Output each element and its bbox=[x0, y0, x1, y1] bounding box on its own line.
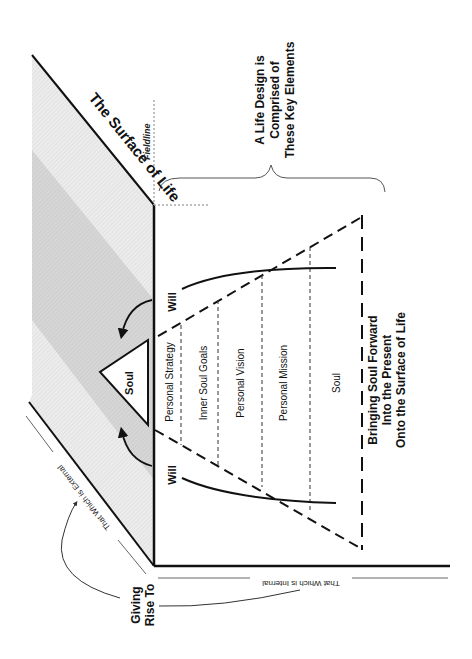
layer-personal-strategy: Personal Strategy bbox=[164, 342, 175, 422]
caption-line2: Into the Present bbox=[380, 335, 394, 426]
will-label-bottom: Will bbox=[166, 465, 178, 484]
brace-label-line2: Comprised of bbox=[268, 60, 282, 138]
caption-line1: Bringing Soul Forward bbox=[366, 315, 380, 444]
layer-personal-vision: Personal Vision bbox=[235, 348, 246, 417]
fieldline-label: Fieldline bbox=[142, 123, 152, 160]
brace-label-line1: A Life Design is bbox=[253, 55, 267, 145]
giving-rise-to-internal-line bbox=[159, 590, 300, 606]
will-curve-top bbox=[182, 268, 336, 289]
internal-label: That Which is Internal bbox=[262, 579, 340, 588]
layer-personal-mission: Personal Mission bbox=[278, 345, 289, 421]
layer-inner-soul-goals: Inner Soul Goals bbox=[198, 346, 209, 421]
brace-label-line3: These Key Elements bbox=[283, 41, 297, 158]
will-label-top: Will bbox=[166, 292, 178, 311]
giving-rise-line1: Giving bbox=[129, 586, 143, 623]
soul-apex-label: Soul bbox=[123, 371, 135, 395]
layer-soul: Soul bbox=[331, 373, 342, 393]
life-design-triangle-lower bbox=[155, 430, 360, 548]
caption-line3: Onto the Surface of Life bbox=[394, 312, 408, 448]
life-design-diagram: The Surface of Life Fieldline A Life Des… bbox=[0, 0, 472, 659]
giving-rise-line2: Rise To bbox=[143, 584, 157, 626]
giving-rise-arrow bbox=[61, 503, 120, 598]
brace bbox=[159, 165, 385, 192]
life-design-triangle bbox=[155, 218, 360, 338]
